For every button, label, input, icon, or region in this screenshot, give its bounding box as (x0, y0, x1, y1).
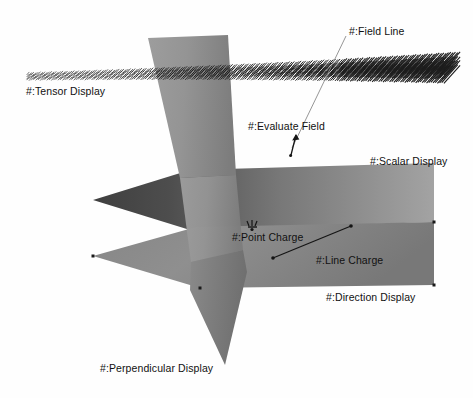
label-scalar-display: #:Scalar Display (370, 156, 447, 167)
perpendicular-display-plane-upper (148, 35, 236, 178)
label-field-line: #:Field Line (349, 26, 404, 37)
tensor-display-glyph-band (27, 52, 460, 83)
label-direction-display: #:Direction Display (326, 292, 415, 303)
evaluate-field-arrow-icon (289, 134, 299, 157)
label-perpendicular-display: #:Perpendicular Display (100, 363, 213, 374)
field-visualization-figure: #:Tensor Display #:Field Line #:Evaluate… (0, 0, 473, 398)
scalar-display-plane (93, 163, 434, 230)
3d-scene-canvas (0, 0, 473, 398)
label-tensor-display: #:Tensor Display (26, 86, 105, 97)
label-line-charge: #:Line Charge (316, 255, 383, 266)
label-point-charge: #:Point Charge (232, 232, 303, 243)
label-evaluate-field: #:Evaluate Field (248, 121, 325, 132)
perpendicular-display-plane-mid (180, 175, 243, 262)
perpendicular-display-plane-lower (190, 250, 247, 365)
